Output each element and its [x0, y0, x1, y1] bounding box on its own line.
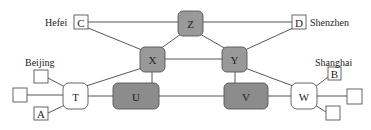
- node-r2: [326, 106, 340, 120]
- edge-z-y: [200, 34, 226, 49]
- node-label: D: [295, 17, 303, 29]
- edge-w-b: [315, 77, 328, 87]
- node-label: B: [331, 68, 338, 80]
- edge-a-t: [48, 105, 65, 113]
- host-box: [326, 106, 340, 120]
- node-u: U: [113, 83, 159, 109]
- city-label-shenzhen: Shenzhen: [310, 17, 349, 28]
- node-z: Z: [178, 11, 203, 36]
- node-a: A: [34, 107, 48, 120]
- node-label: V: [242, 91, 250, 103]
- node-label: X: [149, 54, 157, 66]
- node-l1: [34, 70, 48, 83]
- host-box: [13, 88, 27, 102]
- node-b: B: [328, 67, 341, 80]
- city-label-shanghai: Shanghai: [315, 57, 352, 68]
- node-y: Y: [222, 47, 247, 72]
- node-v: V: [224, 83, 268, 109]
- city-label-hefei: Hefei: [45, 17, 67, 28]
- node-label: Z: [187, 18, 194, 30]
- node-x: X: [140, 47, 165, 72]
- node-r1: [347, 89, 362, 104]
- edge-d-y: [245, 28, 293, 50]
- node-label: W: [299, 91, 310, 103]
- node-w: W: [291, 83, 317, 109]
- network-diagram: ZXYUVTWCDAB HefeiShenzhenBeijingShanghai: [0, 0, 371, 130]
- node-label: Y: [231, 54, 239, 66]
- host-box: [34, 70, 48, 83]
- node-label: T: [72, 91, 79, 103]
- node-label: A: [37, 108, 45, 120]
- edge-l1-t: [48, 78, 65, 87]
- node-l2: [13, 88, 27, 102]
- node-label: U: [132, 91, 140, 103]
- edge-c-x: [88, 28, 142, 50]
- city-label-beijing: Beijing: [25, 57, 54, 68]
- node-label: C: [77, 17, 84, 29]
- node-d: D: [292, 15, 306, 29]
- node-c: C: [74, 15, 88, 29]
- edge-z-x: [160, 34, 181, 49]
- host-box: [347, 89, 362, 104]
- node-t: T: [63, 83, 88, 109]
